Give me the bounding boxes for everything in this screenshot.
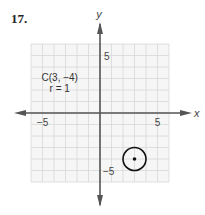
coordinate-plane: −555−5 x y C(3, −4) r = 1 bbox=[0, 0, 205, 215]
radius-label: r = 1 bbox=[50, 83, 71, 94]
x-axis-arrow-right bbox=[180, 110, 192, 116]
x-tick-label: −5 bbox=[37, 117, 49, 128]
y-axis-label: y bbox=[95, 8, 103, 20]
y-tick-label: −5 bbox=[103, 166, 115, 177]
y-axis-arrow-up bbox=[97, 22, 103, 34]
x-axis-label: x bbox=[193, 107, 200, 119]
center-point bbox=[133, 157, 137, 161]
x-axis-arrow-left bbox=[14, 110, 26, 116]
center-label: C(3, −4) bbox=[42, 72, 78, 83]
x-tick-label: 5 bbox=[155, 117, 161, 128]
y-tick-label: 5 bbox=[104, 51, 110, 62]
y-axis-arrow-down bbox=[97, 195, 103, 207]
